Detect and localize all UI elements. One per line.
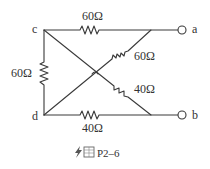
resistor-label-diag-b: 40Ω <box>134 82 155 96</box>
figure-icon <box>84 147 94 157</box>
figure-caption: P2–6 <box>97 147 120 159</box>
resistor-label-diag-a: 60Ω <box>134 49 155 63</box>
terminal-b <box>178 111 186 119</box>
wire-top <box>44 26 178 34</box>
resistor-label-bottom: 40Ω <box>82 121 103 135</box>
node-label-a: a <box>192 22 198 36</box>
circuit-diagram: c d a b 60Ω 60Ω 60Ω 40Ω 40Ω P2–6 <box>0 0 210 169</box>
wire-left <box>40 30 48 115</box>
resistor-label-left: 60Ω <box>11 66 32 80</box>
resistor-label-top: 60Ω <box>82 9 103 23</box>
wire-bottom <box>44 111 178 119</box>
node-label-d: d <box>32 109 38 123</box>
lightning-icon <box>75 146 82 158</box>
node-label-b: b <box>192 108 198 122</box>
terminal-a <box>178 26 186 34</box>
node-label-c: c <box>32 22 37 36</box>
